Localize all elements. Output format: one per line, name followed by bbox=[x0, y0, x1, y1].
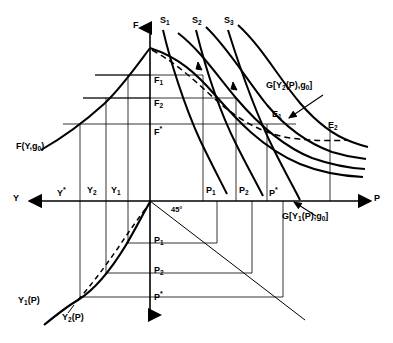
p-vertical-tick-pstar: P* bbox=[154, 290, 163, 302]
iy1-end: (P) bbox=[28, 295, 40, 305]
f2-sub: 2 bbox=[160, 102, 164, 109]
p1-sub: 1 bbox=[212, 189, 216, 196]
g-curve-3 bbox=[206, 27, 366, 159]
fy-text: F(Y,g bbox=[16, 141, 38, 151]
axis-label-p: P bbox=[374, 194, 380, 203]
pointer-g-upper bbox=[289, 95, 323, 118]
axis-group bbox=[30, 28, 370, 315]
supply-label-s2: S2 bbox=[192, 16, 202, 25]
supply-direction-arrows bbox=[196, 62, 237, 90]
y-tick-y2: Y2 bbox=[87, 186, 97, 195]
f2-text: F bbox=[154, 98, 160, 108]
supply-label-s3: S3 bbox=[224, 16, 234, 25]
p-vertical-tick-p2: P2 bbox=[154, 266, 164, 275]
g-curve-lower-label: G[Y1(P),g0] bbox=[282, 212, 328, 221]
quadrant-3-gridlines bbox=[80, 201, 283, 297]
angle-label: 45° bbox=[171, 206, 182, 214]
p-tick-p2: P2 bbox=[239, 186, 249, 195]
s3-sub: 3 bbox=[230, 19, 234, 26]
gl-end: (P),g bbox=[302, 211, 322, 221]
gl-close: ] bbox=[325, 211, 328, 221]
s1-sub: 1 bbox=[166, 19, 170, 26]
supply-line-s1 bbox=[163, 30, 227, 194]
pv2-sub: 2 bbox=[160, 269, 164, 276]
equilibrium-point-e2: E2 bbox=[328, 121, 338, 130]
diagram-canvas bbox=[0, 0, 393, 343]
f-tick-f2: F2 bbox=[154, 99, 163, 108]
gl-sub2: 0 bbox=[322, 215, 326, 222]
fy-sub: 0 bbox=[38, 145, 42, 152]
iy2-sub: 2 bbox=[68, 316, 72, 323]
p2-sub: 2 bbox=[245, 189, 249, 196]
p-tick-p1: P1 bbox=[206, 186, 216, 195]
y1-sub: 1 bbox=[117, 189, 121, 196]
income-curve-y2 bbox=[78, 203, 150, 300]
s2-sub: 2 bbox=[198, 19, 202, 26]
p-tick-pstar: P* bbox=[269, 186, 278, 198]
fstar-sub: * bbox=[160, 125, 163, 132]
gl-sub: 1 bbox=[298, 215, 302, 222]
axis-label-f: F bbox=[133, 21, 139, 30]
e1-sub: 1 bbox=[278, 113, 282, 120]
income-curve-y1-label: Y1(P) bbox=[18, 296, 40, 305]
fy-end: ) bbox=[41, 141, 44, 151]
economic-diagram: F P Y S1 S2 S3 F1 F2 F* F(Y,g0) G[Y2(P),… bbox=[0, 0, 393, 343]
gu-sub: 2 bbox=[282, 84, 286, 91]
iy1-sub: 1 bbox=[24, 299, 28, 306]
pvstar-sub: * bbox=[160, 290, 163, 297]
supply-label-s1: S1 bbox=[160, 16, 170, 25]
production-function-curve bbox=[41, 48, 150, 150]
gu-text: G[Y bbox=[266, 80, 282, 90]
pstar-sub: * bbox=[275, 186, 278, 193]
f-tick-fstar: F* bbox=[154, 125, 162, 137]
f1-sub: 1 bbox=[160, 79, 164, 86]
iy2-end: (P) bbox=[72, 312, 84, 322]
income-curve-y1 bbox=[44, 202, 150, 325]
y-tick-ystar: Y* bbox=[57, 186, 66, 198]
g-curve-upper-label: G[Y2(P),g0] bbox=[266, 81, 312, 90]
y-tick-y1: Y1 bbox=[111, 186, 121, 195]
income-curve-y2-label: Y2(P) bbox=[62, 313, 84, 322]
f1-text: F bbox=[154, 75, 160, 85]
ystar-sub: * bbox=[63, 186, 66, 193]
gu-sub2: 0 bbox=[306, 84, 310, 91]
gl-text: G[Y bbox=[282, 211, 298, 221]
y2-sub: 2 bbox=[93, 189, 97, 196]
p-vertical-tick-p1: P1 bbox=[154, 236, 164, 245]
production-function-label: F(Y,g0) bbox=[16, 142, 44, 151]
gu-close: ] bbox=[309, 80, 312, 90]
axis-label-y: Y bbox=[13, 194, 19, 203]
gu-end: (P),g bbox=[286, 80, 306, 90]
e2-sub: 2 bbox=[334, 124, 338, 131]
equilibrium-point-e1: E1 bbox=[272, 110, 282, 119]
f-tick-f1: F1 bbox=[154, 76, 163, 85]
pv1-sub: 1 bbox=[160, 239, 164, 246]
